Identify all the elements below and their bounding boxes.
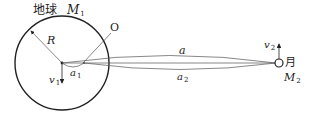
v1-label: v1 — [49, 75, 60, 87]
a1-label: a1 — [70, 68, 81, 80]
point-o-label: O — [110, 22, 119, 33]
radius-label: R — [47, 35, 55, 46]
moon-label: 月 — [285, 57, 296, 68]
earth-mass-label: M1 — [67, 4, 85, 18]
earth-label: 地球 — [33, 4, 57, 16]
moon-mass-label: M2 — [284, 72, 301, 85]
a2-brace — [84, 63, 276, 70]
diagram-drawing — [0, 0, 312, 116]
v2-label: v2 — [264, 40, 275, 52]
a-label: a — [179, 45, 186, 56]
a2-label: a2 — [177, 72, 188, 84]
earth-moon-diagram: 地球 M1 R O a1 v1 a a2 v2 月 M2 — [0, 0, 312, 116]
a-brace — [62, 56, 276, 64]
moon-circle — [275, 59, 283, 67]
